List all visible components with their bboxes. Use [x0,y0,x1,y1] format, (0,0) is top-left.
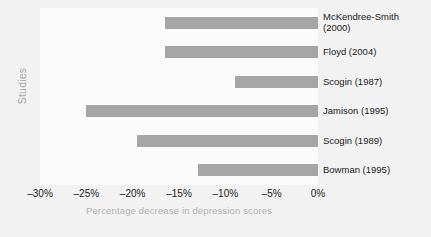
bar-row [40,156,318,186]
x-axis-title: Percentage decrease in depression scores [40,205,318,216]
category-label: Bowman (1995) [323,165,390,176]
category-label: Jamison (1995) [323,106,388,117]
bar [165,17,318,29]
x-tick-label: –5% [250,188,294,199]
category-label: Floyd (2004) [323,47,376,58]
x-tick-label: 0% [296,188,340,199]
x-axis-tick-labels: –30%–25%–20%–15%–10%–5%0% [0,188,431,202]
bar [137,135,318,147]
category-label: McKendree-Smith (2000) [323,12,399,33]
bar-row [40,126,318,156]
bar-chart: Studies McKendree-Smith (2000)Floyd (200… [0,0,431,237]
bar-row [40,8,318,38]
y-axis-title: Studies [16,56,28,116]
x-tick-label: –30% [18,188,62,199]
category-label: Scogin (1989) [323,136,382,147]
bar-row [40,67,318,97]
bar-row [40,97,318,127]
bar-row [40,38,318,68]
x-tick-label: –10% [203,188,247,199]
bar [86,105,318,117]
category-label: Scogin (1987) [323,77,382,88]
x-tick-label: –20% [111,188,155,199]
bar [235,76,318,88]
plot-area [40,8,318,185]
bar [198,164,318,176]
x-tick-label: –15% [157,188,201,199]
x-tick-label: –25% [64,188,108,199]
category-label-list: McKendree-Smith (2000)Floyd (2004)Scogin… [323,8,431,185]
bar [165,46,318,58]
